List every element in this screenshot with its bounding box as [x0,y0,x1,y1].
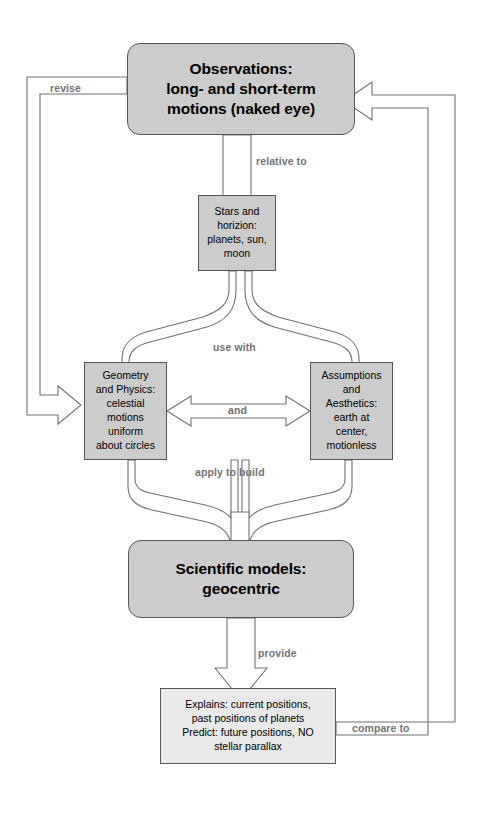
node-stars-horizon: Stars and horizion: planets, sun, moon [198,195,276,271]
node-stars-line-0: Stars and [203,205,271,219]
node-explains-line-2: Predict: future positions, NO [165,726,331,740]
node-models-line-1: geocentric [133,579,349,599]
node-stars-line-1: horizion: [203,219,271,233]
node-observations-line-2: motions (naked eye) [132,99,350,119]
node-stars-line-3: moon [203,247,271,261]
node-geometry-line-1: and Physics: [89,383,162,397]
node-assumptions-line-2: Aesthetics: [315,397,388,411]
edge-label-use-with: use with [213,341,256,353]
node-assumptions-line-3: earth at [315,411,388,425]
node-geometry-line-2: celestial [89,397,162,411]
node-geometry-line-5: about circles [89,439,162,453]
node-assumptions-line-1: and [315,383,388,397]
node-explains-line-0: Explains: current positions, [165,698,331,712]
edge-label-revise: revise [50,82,81,94]
edge-label-relative-to: relative to [256,155,307,167]
edge-label-provide: provide [258,647,297,659]
edge-label-apply-to-build: apply to build [195,466,265,478]
node-scientific-models: Scientific models: geocentric [128,540,354,618]
node-geometry-line-3: motions [89,411,162,425]
node-stars-line-2: planets, sun, [203,233,271,247]
node-assumptions-aesthetics: Assumptions and Aesthetics: earth at cen… [310,362,393,460]
node-explains-line-1: past positions of planets [165,712,331,726]
edge-label-and: and [228,404,247,416]
node-observations: Observations: long- and short-term motio… [127,43,355,135]
node-assumptions-line-0: Assumptions [315,369,388,383]
node-observations-line-1: long- and short-term [132,79,350,99]
node-explains-line-3: stellar parallax [165,740,331,754]
flow-diagram: Observations: long- and short-term motio… [0,0,479,818]
node-observations-line-0: Observations: [132,59,350,79]
node-assumptions-line-5: motionless [315,439,388,453]
node-geometry-line-0: Geometry [89,369,162,383]
edge-label-compare-to: compare to [352,722,410,734]
node-geometry-physics: Geometry and Physics: celestial motions … [84,362,167,460]
node-explains-predict: Explains: current positions, past positi… [160,688,336,764]
node-assumptions-line-4: center, [315,425,388,439]
node-models-line-0: Scientific models: [133,559,349,579]
node-geometry-line-4: uniform [89,425,162,439]
